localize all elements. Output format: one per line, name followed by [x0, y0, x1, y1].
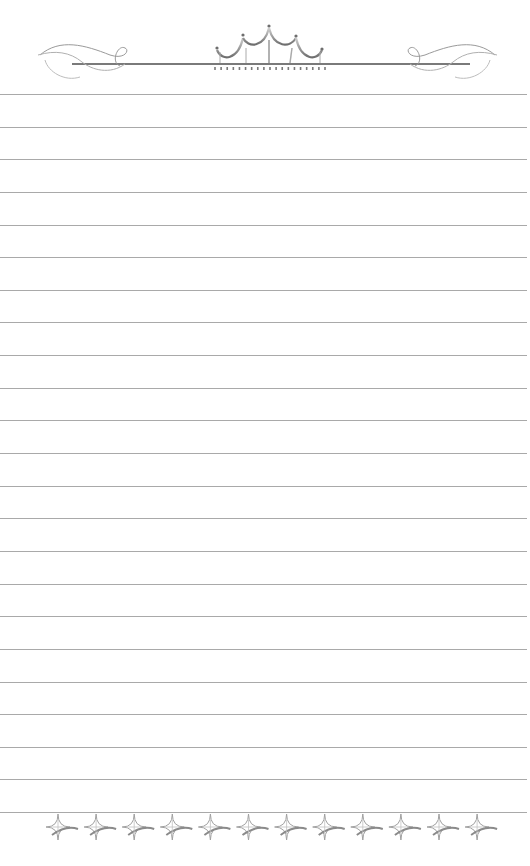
four-point-star-icon: [84, 814, 116, 840]
rule-line: [0, 322, 527, 323]
rule-line: [0, 682, 527, 683]
four-point-star-icon: [351, 814, 383, 840]
stationery-page: [0, 0, 530, 866]
four-point-star-icon: [389, 814, 421, 840]
four-point-star-icon: [427, 814, 459, 840]
four-point-star-icon: [237, 814, 269, 840]
rule-line: [0, 714, 527, 715]
four-point-star-icon: [122, 814, 154, 840]
rule-line: [0, 159, 527, 160]
footer-star-chain-ornament: [0, 808, 530, 848]
rule-line: [0, 616, 527, 617]
rule-line: [0, 518, 527, 519]
four-point-star-icon: [198, 814, 230, 840]
rule-line: [0, 779, 527, 780]
rule-line: [0, 127, 527, 128]
rule-line: [0, 486, 527, 487]
four-point-star-icon: [313, 814, 345, 840]
rule-line: [0, 290, 527, 291]
rule-line: [0, 747, 527, 748]
rule-line: [0, 355, 527, 356]
rule-line: [0, 584, 527, 585]
rule-line: [0, 649, 527, 650]
rule-line: [0, 225, 527, 226]
rule-line: [0, 388, 527, 389]
four-point-star-icon: [465, 814, 497, 840]
four-point-star-icon: [160, 814, 192, 840]
four-point-star-icon: [275, 814, 307, 840]
rule-line: [0, 420, 527, 421]
rule-line: [0, 192, 527, 193]
rule-line: [0, 453, 527, 454]
ruled-writing-area[interactable]: [0, 0, 530, 866]
four-point-star-icon: [46, 814, 78, 840]
rule-line: [0, 94, 527, 95]
rule-line: [0, 551, 527, 552]
rule-line: [0, 257, 527, 258]
